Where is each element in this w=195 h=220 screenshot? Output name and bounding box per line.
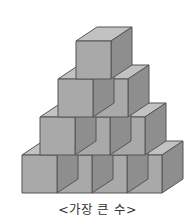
cube-pyramid-figure (0, 0, 195, 220)
cube-front-face (76, 41, 111, 79)
cube (76, 27, 132, 79)
cube-front-face (40, 117, 75, 155)
cube-stack-graphic (0, 0, 195, 220)
cube-front-face (58, 79, 93, 117)
cube-front-face (22, 155, 57, 193)
figure-caption: <가장 큰 수> (0, 199, 195, 218)
